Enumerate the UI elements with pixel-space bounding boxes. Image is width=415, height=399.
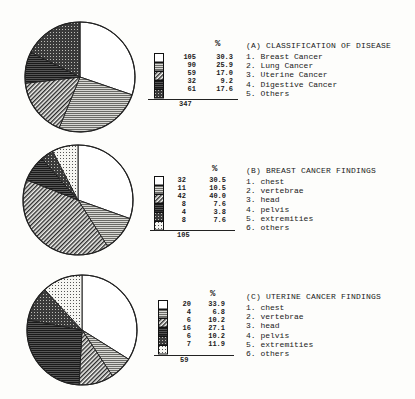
percents-c: 33.96.810.227.110.211.9: [197, 300, 225, 348]
pie-chart-c: [24, 272, 140, 388]
percent-value: 10.2: [197, 332, 225, 340]
legend-swatches-a: [154, 53, 164, 104]
percent-value: 33.9: [197, 300, 225, 308]
legend-item: 5. extremities: [246, 214, 313, 223]
percent-value: 27.1: [197, 324, 225, 332]
count-value: 90: [168, 61, 196, 69]
percent-header-c: %: [210, 289, 215, 299]
total-rule-c: [154, 355, 234, 356]
counts-a: 10590593261: [168, 53, 196, 93]
pie-chart-a: [22, 19, 138, 135]
pie-slices-b: [23, 145, 133, 255]
chart-title-c: (C) UTERINE CANCER FINDINGS: [246, 292, 381, 301]
legend-item: 2. vertebrae: [246, 186, 313, 195]
legend-item: 3. head: [246, 321, 313, 330]
count-value: 32: [158, 176, 186, 184]
counts-b: 321142848: [158, 176, 186, 224]
chart-title-a: (A) CLASSIFICATION OF DISEASE: [246, 41, 391, 50]
percents-a: 30.325.917.09.217.6: [205, 53, 233, 93]
legend-item: 4. pelvis: [246, 331, 313, 340]
count-value: 11: [158, 184, 186, 192]
percent-value: 7.6: [198, 216, 226, 224]
percent-header-a: %: [215, 39, 220, 49]
count-value: 32: [168, 77, 196, 85]
legend-item: 4. Digestive Cancer: [246, 80, 337, 89]
count-value: 105: [168, 53, 196, 61]
count-value: 20: [163, 300, 191, 308]
percent-value: 30.5: [198, 176, 226, 184]
pie-slices-c: [27, 275, 137, 385]
count-value: 6: [163, 332, 191, 340]
legend-item: 4. pelvis: [246, 205, 313, 214]
percents-b: 30.510.540.07.63.87.6: [198, 176, 226, 224]
count-value: 61: [168, 85, 196, 93]
percent-value: 17.6: [205, 85, 233, 93]
counts-c: 20461667: [163, 300, 191, 348]
total-c: 59: [180, 356, 188, 364]
legend-item: 6. others: [246, 223, 313, 232]
count-value: 8: [158, 200, 186, 208]
total-rule-b: [150, 230, 235, 231]
legend-item: 3. head: [246, 195, 313, 204]
count-value: 7: [163, 340, 191, 348]
count-value: 42: [158, 192, 186, 200]
total-b: 105: [177, 231, 190, 239]
percent-value: 11.9: [197, 340, 225, 348]
percent-value: 40.0: [198, 192, 226, 200]
pie-chart-b: [20, 142, 136, 258]
pie-slice-pelvis: [27, 320, 82, 385]
legend-item: 3. Uterine Cancer: [246, 70, 337, 79]
count-value: 4: [163, 308, 191, 316]
total-a: 347: [179, 100, 192, 108]
legend-item: 1. Breast Cancer: [246, 52, 337, 61]
legend-item: 5. Others: [246, 89, 337, 98]
percent-value: 10.2: [197, 316, 225, 324]
count-value: 16: [163, 324, 191, 332]
percent-value: 6.8: [197, 308, 225, 316]
percent-value: 10.5: [198, 184, 226, 192]
legend-items-c: 1. chest2. vertebrae3. head4. pelvis5. e…: [246, 303, 313, 358]
percent-value: 3.8: [198, 208, 226, 216]
count-value: 8: [158, 216, 186, 224]
legend-item: 6. others: [246, 349, 313, 358]
legend-items-b: 1. chest2. vertebrae3. head4. pelvis5. e…: [246, 177, 313, 232]
count-value: 4: [158, 208, 186, 216]
count-value: 6: [163, 316, 191, 324]
percent-value: 30.3: [205, 53, 233, 61]
chart-title-b: (B) BREAST CANCER FINDINGS: [246, 166, 376, 175]
count-value: 59: [168, 69, 196, 77]
legend-item: 2. Lung Cancer: [246, 61, 337, 70]
legend-items-a: 1. Breast Cancer2. Lung Cancer3. Uterine…: [246, 52, 337, 98]
legend-item: 1. chest: [246, 177, 313, 186]
percent-value: 17.0: [205, 69, 233, 77]
percent-header-b: %: [212, 164, 217, 174]
legend-item: 5. extremities: [246, 340, 313, 349]
percent-value: 25.9: [205, 61, 233, 69]
legend-item: 2. vertebrae: [246, 312, 313, 321]
percent-value: 7.6: [198, 200, 226, 208]
pie-slices-a: [25, 22, 135, 132]
legend-item: 1. chest: [246, 303, 313, 312]
total-rule-a: [148, 99, 238, 100]
percent-value: 9.2: [205, 77, 233, 85]
